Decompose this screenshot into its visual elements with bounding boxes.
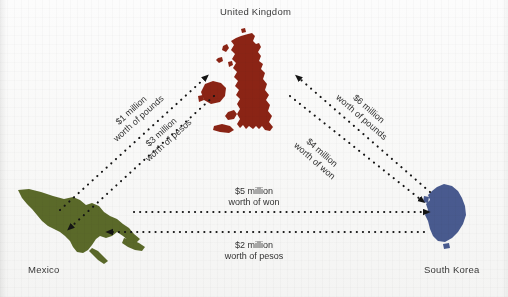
country-label-mexico: Mexico [28,264,60,275]
flow-line-southkorea-to-uk [300,79,430,192]
flow-amount-mexico-to-southkorea: $5 million [0,186,508,197]
flow-currency-southkorea-to-mexico: worth of pesos [0,251,508,262]
flow-label-southkorea-to-mexico: $2 million worth of pesos [0,240,508,262]
flow-amount-southkorea-to-mexico: $2 million [0,240,508,251]
flow-label-mexico-to-southkorea: $5 million worth of won [0,186,508,208]
country-label-united-kingdom: United Kingdom [220,6,291,17]
flow-currency-mexico-to-southkorea: worth of won [0,197,508,208]
country-label-south-korea: South Korea [424,264,480,275]
map-shape-united-kingdom [198,28,273,133]
diagram-canvas: United Kingdom Mexico South Korea $1 mil… [0,0,508,297]
